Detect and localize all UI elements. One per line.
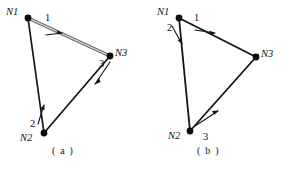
panel-b-caption: ( b ) xyxy=(197,145,220,156)
panel-a-node-N2-label: N2 xyxy=(19,132,33,143)
panel-a-edge-1-label: 1 xyxy=(45,12,50,23)
edge-1-inner-gap xyxy=(28,18,110,56)
panel-a-edge-1 xyxy=(28,18,110,56)
panel-b-edge-2-label: 2 xyxy=(167,22,172,33)
panel-a-node-N1-dot[interactable] xyxy=(25,15,32,22)
triangle-graph-diagram: N1 N2 N3 1 2 3 xyxy=(0,0,289,172)
edge-2-arrowhead xyxy=(38,104,45,124)
panel-a-node-N3-label: N3 xyxy=(114,47,127,58)
panel-b-node-N1-dot[interactable] xyxy=(176,15,183,22)
panel-b-edge-3-label: 3 xyxy=(203,131,208,142)
panel-a-node-N1-label: N1 xyxy=(5,6,18,17)
panel-a-edge-3-label: 3 xyxy=(99,58,104,69)
panel-b-node-N3-dot[interactable] xyxy=(253,54,260,61)
panel-b-node-N3-label: N3 xyxy=(260,48,273,59)
edge-1-line xyxy=(179,18,256,57)
figure-container: N1 N2 N3 1 2 3 xyxy=(0,0,289,172)
panel-b-node-N1-label: N1 xyxy=(156,6,169,17)
panel-b-edge-3 xyxy=(190,57,256,131)
panel-a-node-N2-dot[interactable] xyxy=(41,130,48,137)
panel-a: N1 N2 N3 1 2 3 xyxy=(5,6,127,143)
edge-3-arrow-tip xyxy=(95,78,101,85)
edge-2-arrow-tip xyxy=(178,38,183,45)
edge-2-line xyxy=(179,18,190,131)
edge-2-line xyxy=(28,18,44,133)
panel-b-edge-2 xyxy=(172,18,190,131)
panel-b-node-N2-dot[interactable] xyxy=(187,128,194,135)
panel-a-edge-2-label: 2 xyxy=(30,118,35,129)
panel-a-caption: ( a ) xyxy=(52,145,74,156)
panel-b-edge-1 xyxy=(179,18,256,57)
panel-b: N1 N2 N3 1 2 3 xyxy=(156,6,273,142)
panel-a-edge-2 xyxy=(28,18,45,133)
panel-b-edge-1-label: 1 xyxy=(194,12,199,23)
panel-a-node-N3-dot[interactable] xyxy=(107,53,114,60)
panel-b-node-N2-label: N2 xyxy=(167,130,181,141)
edge-3-line xyxy=(190,57,256,131)
